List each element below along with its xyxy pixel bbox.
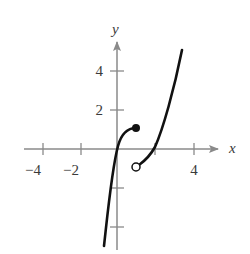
right-curve	[139, 50, 182, 165]
x-axis-label: x	[228, 140, 236, 156]
closed-endpoint	[132, 124, 140, 132]
function-graph: −4 −2 4 4 2 x y	[0, 0, 250, 254]
open-endpoint	[132, 163, 140, 171]
y-tick-label-2: 2	[96, 102, 104, 118]
y-axis-label: y	[110, 21, 119, 37]
x-tick-label-neg2: −2	[63, 162, 79, 178]
left-curve	[104, 128, 136, 246]
x-tick-label-4: 4	[190, 162, 198, 178]
y-tick-label-4: 4	[96, 63, 104, 79]
x-tick-label-neg4: −4	[25, 162, 41, 178]
